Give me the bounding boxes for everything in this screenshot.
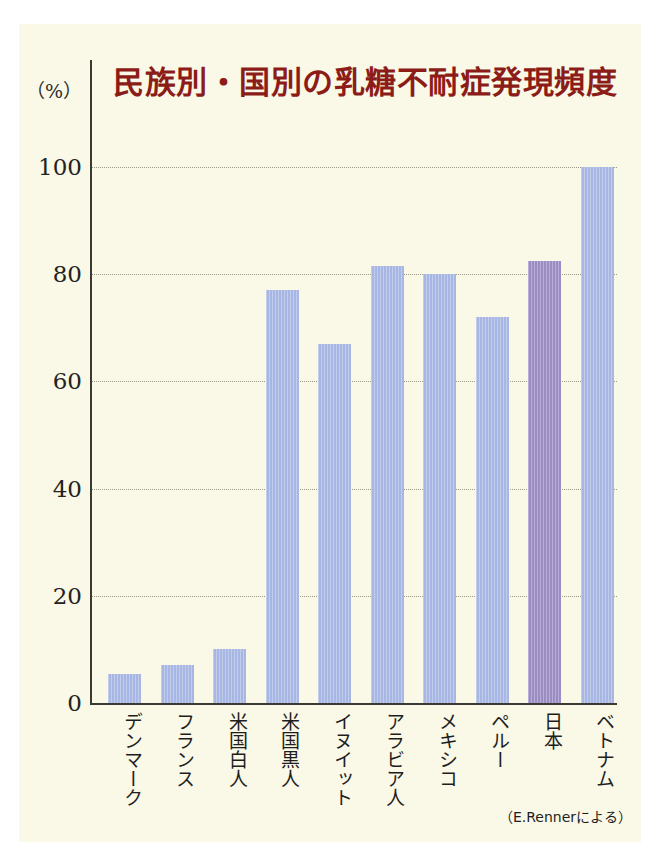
y-axis-tick-labels: 020406080100 [18,60,82,705]
x-tick-label-6: アラビア人 [371,712,404,807]
bar-8 [476,317,509,703]
y-tick-label-60: 60 [26,368,82,394]
x-tick-label-10: ベトナム [581,712,614,788]
bar-9 [528,261,561,703]
y-tick-label-80: 80 [26,261,82,287]
y-tick-label-40: 40 [26,476,82,502]
y-tick-label-100: 100 [26,154,82,180]
bar-1 [108,674,141,703]
bar-5 [318,344,351,703]
source-note: （E.Rennerによる） [499,806,632,826]
x-tick-label-2: フランス [161,712,194,788]
figure-root: 民族別・国別の乳糖不耐症発現頻度 （%） 020406080100 デンマークフ… [0,0,659,857]
x-tick-label-7: メキシコ [423,712,456,788]
x-tick-label-9: 日本 [528,712,561,750]
y-tick-label-20: 20 [26,583,82,609]
x-tick-label-5: イヌイット [318,712,351,807]
x-tick-label-8: ペルー [476,712,509,769]
bar-4 [266,290,299,703]
bar-6 [371,266,404,703]
y-tick-label-0: 0 [26,690,82,716]
bar-2 [161,665,194,703]
bar-3 [213,649,246,703]
bar-series [92,60,619,703]
x-axis-line [90,703,617,705]
x-tick-label-4: 米国黒人 [266,712,299,788]
bar-7 [423,274,456,703]
x-tick-label-1: デンマーク [108,712,141,807]
bar-10 [581,167,614,703]
x-tick-label-3: 米国白人 [213,712,246,788]
